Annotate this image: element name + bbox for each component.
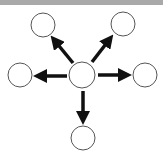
node-top-left xyxy=(31,13,55,37)
node-left xyxy=(8,63,32,87)
node-right xyxy=(133,63,157,87)
node-bottom xyxy=(71,126,95,150)
hub-spoke-diagram xyxy=(0,0,163,161)
arrow-to-top-left xyxy=(55,41,73,63)
node-center xyxy=(69,62,95,88)
arrow-to-top-right xyxy=(92,40,109,62)
node-top-right xyxy=(111,12,135,36)
